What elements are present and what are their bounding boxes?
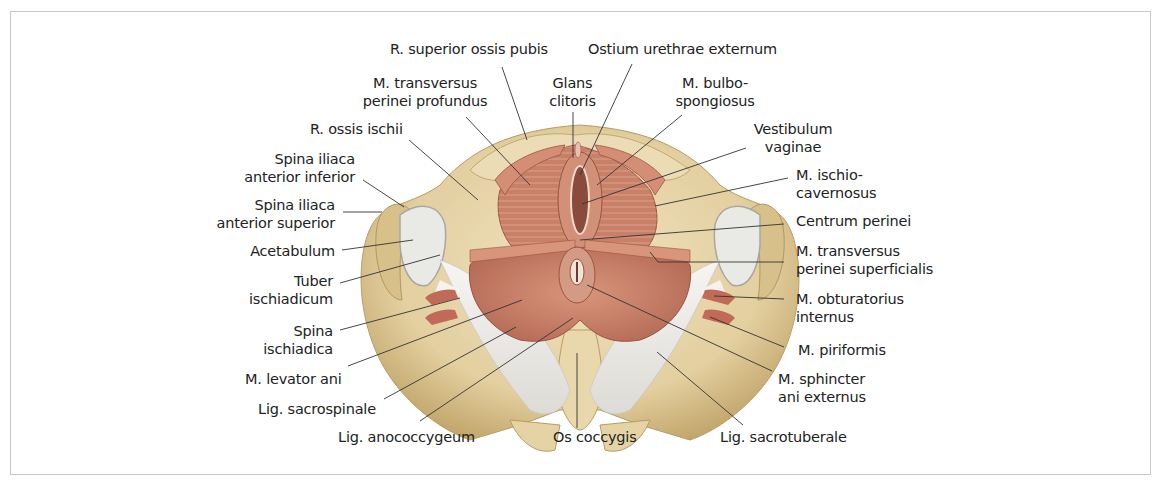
label-lig-sacrospinale: Lig. sacrospinale — [258, 400, 376, 418]
label-acetabulum: Acetabulum — [220, 242, 335, 260]
label-spina-ischiadica: Spina ischiadica — [220, 322, 333, 358]
label-m-ischiocavernosus: M. ischio- cavernosus — [796, 166, 876, 202]
label-vestibulum-vaginae: Vestibulum vaginae — [738, 120, 848, 156]
label-glans-clitoris: Glans clitoris — [540, 74, 605, 110]
label-m-piriformis: M. piriformis — [798, 341, 886, 359]
label-m-levator-ani: M. levator ani — [245, 370, 342, 388]
label-m-obturatorius-internus: M. obturatorius internus — [796, 290, 904, 326]
label-r-superior-ossis-pubis: R. superior ossis pubis — [390, 40, 548, 58]
label-r-ossis-ischii: R. ossis ischii — [310, 120, 403, 138]
label-centrum-perinei: Centrum perinei — [796, 212, 911, 230]
label-m-transversus-perinei-superficialis: M. transversus perinei superficialis — [796, 242, 933, 278]
label-m-transversus-perinei-profundus: M. transversus perinei profundus — [345, 74, 505, 110]
label-ostium-urethrae-externum: Ostium urethrae externum — [588, 40, 777, 58]
label-m-bulbospongiosus: M. bulbo- spongiosus — [665, 74, 765, 110]
label-lig-anococcygeum: Lig. anococcygeum — [338, 428, 475, 446]
label-lig-sacrotuberale: Lig. sacrotuberale — [720, 428, 847, 446]
label-tuber-ischiadicum: Tuber ischiadicum — [220, 272, 333, 308]
label-spina-iliaca-anterior-inferior: Spina iliaca anterior inferior — [200, 150, 355, 186]
label-m-sphincter-ani-externus: M. sphincter ani externus — [778, 370, 866, 406]
label-os-coccygis: Os coccygis — [553, 428, 637, 446]
label-spina-iliaca-anterior-superior: Spina iliaca anterior superior — [190, 196, 335, 232]
